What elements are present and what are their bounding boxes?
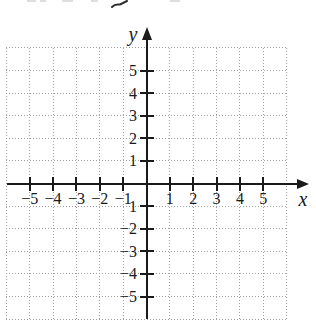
cropped-letter-descender-artifact <box>111 0 129 8</box>
y-axis-arrowhead-icon <box>142 27 152 40</box>
cropped-text-artifact <box>27 0 36 2</box>
x-tick-label: 3 <box>205 189 229 208</box>
y-tick-label: 3 <box>109 106 137 125</box>
y-tick-label: 1 <box>109 197 137 216</box>
x-axis-label: x <box>292 188 314 210</box>
cropped-text-artifact <box>40 0 46 2</box>
y-tick-label: 4 <box>109 84 137 103</box>
cropped-text-artifact <box>62 0 73 2</box>
x-tick-label: 5 <box>251 189 275 208</box>
y-tick-label: 5 <box>109 61 137 80</box>
x-tick-label: 2 <box>181 189 205 208</box>
x-axis-line <box>7 183 299 185</box>
x-tick-label: −3 <box>64 189 88 208</box>
x-tick-label: −5 <box>18 189 42 208</box>
cropped-text-artifact <box>91 0 98 2</box>
x-tick-label: −4 <box>41 189 65 208</box>
x-tick-label: 4 <box>228 189 252 208</box>
y-tick-label: −4 <box>109 264 137 283</box>
coordinate-plane-figure: −5−4−3−2−112345543211−2−3−4−5 y x <box>0 0 316 332</box>
y-tick-label: −5 <box>109 287 137 306</box>
y-tick-label: −3 <box>109 242 137 261</box>
x-axis-arrowhead-icon <box>297 179 309 189</box>
y-tick-label: −2 <box>109 219 137 238</box>
x-tick-label: 1 <box>158 189 182 208</box>
y-tick-label: 2 <box>109 129 137 148</box>
cropped-text-artifact <box>170 0 180 2</box>
y-tick-label: 1 <box>109 151 137 170</box>
y-axis-line <box>146 39 148 319</box>
